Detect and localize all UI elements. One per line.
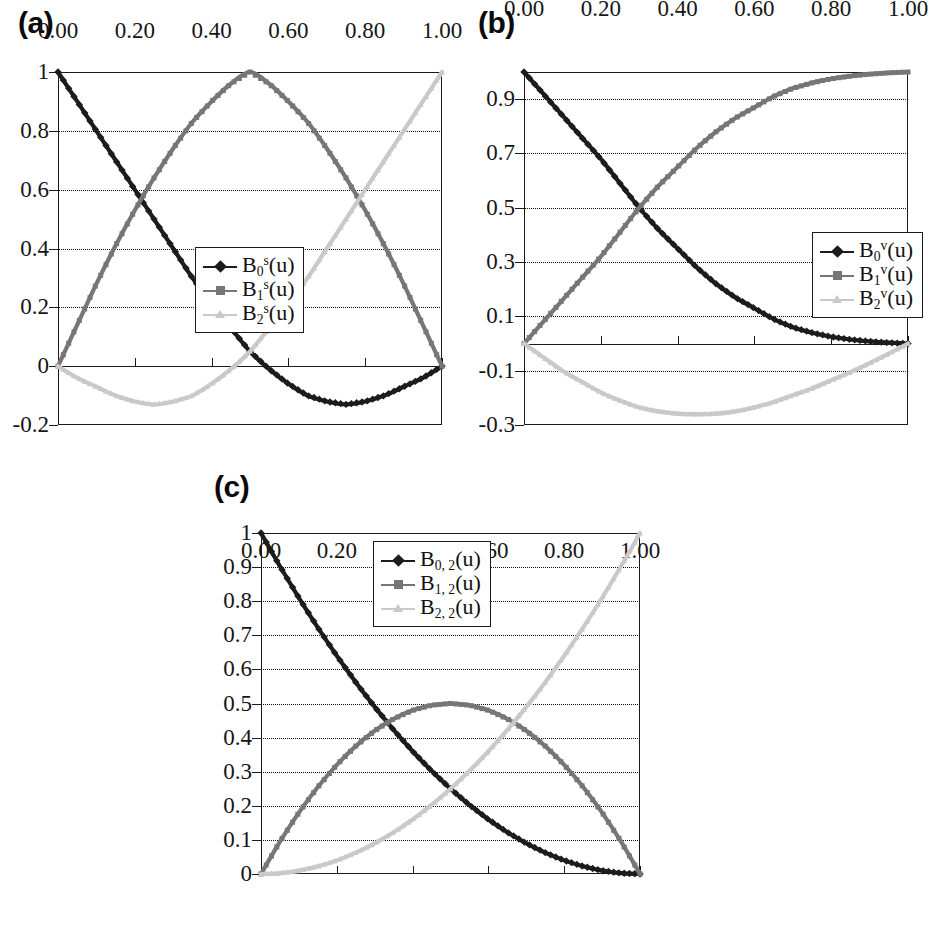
- series-marker: [788, 87, 793, 92]
- series-marker: [311, 790, 316, 795]
- series-marker: [842, 74, 847, 79]
- series-marker: [374, 727, 379, 732]
- x-axis-tick-label: 0.40: [191, 18, 231, 44]
- series-marker: [553, 754, 558, 759]
- y-axis-tick-label: -0.1: [479, 358, 524, 384]
- series-marker: [772, 93, 777, 98]
- series-marker: [429, 341, 434, 346]
- series-marker: [98, 273, 103, 278]
- x-axis-tick-label: 0.00: [504, 0, 544, 22]
- legend-marker-tri-icon: [820, 292, 854, 306]
- series-marker: [411, 708, 416, 713]
- y-axis-tick-label: 0.3: [486, 249, 524, 275]
- series-marker: [448, 701, 453, 706]
- legend-label: B1, 2(u): [420, 572, 481, 596]
- legend-item: B1s(u): [203, 278, 294, 302]
- series-marker: [480, 706, 485, 711]
- series-marker: [401, 712, 406, 717]
- y-axis-tick-label: 0.9: [486, 86, 524, 112]
- series-marker: [194, 115, 199, 120]
- series-marker: [459, 702, 464, 707]
- series-marker: [532, 735, 537, 740]
- series-marker: [264, 79, 269, 84]
- series-marker: [93, 284, 98, 289]
- series-marker: [242, 73, 247, 78]
- series-marker: [580, 783, 585, 788]
- series-marker: [634, 209, 639, 214]
- series-marker: [109, 252, 114, 257]
- series-marker: [237, 76, 242, 81]
- series-marker: [61, 352, 66, 357]
- series-marker: [296, 109, 301, 114]
- series-marker: [453, 701, 458, 706]
- series-marker: [464, 702, 469, 707]
- series-marker: [290, 103, 295, 108]
- series-marker: [682, 158, 687, 163]
- y-axis-tick-label: 0.1: [486, 303, 524, 329]
- series-marker: [559, 299, 564, 304]
- series-marker: [767, 96, 772, 101]
- series-marker: [580, 275, 585, 280]
- series-marker: [522, 727, 527, 732]
- series-marker: [543, 744, 548, 749]
- series-marker: [586, 269, 591, 274]
- series-marker: [548, 749, 553, 754]
- series-marker: [406, 710, 411, 715]
- series-marker: [638, 872, 643, 877]
- legend-item: B0v(u): [820, 239, 913, 263]
- series-marker: [601, 812, 606, 817]
- y-axis-tick-label: 0.1: [223, 827, 261, 853]
- series-marker: [516, 724, 521, 729]
- series-marker: [611, 828, 616, 833]
- series-marker: [424, 329, 429, 334]
- y-axis-tick-label: 0.4: [223, 725, 261, 751]
- series-marker: [344, 175, 349, 180]
- series-marker: [343, 754, 348, 759]
- series-marker: [548, 311, 553, 316]
- y-axis-tick-label: 0.3: [223, 759, 261, 785]
- y-axis-tick-label: 0.7: [223, 622, 261, 648]
- x-axis-tick-label: 0.80: [345, 18, 385, 44]
- series-marker: [799, 83, 804, 88]
- series-marker: [141, 193, 146, 198]
- series-marker: [258, 76, 263, 81]
- panel-b-plot-area: 0.90.70.50.30.1-0.1-0.30.000.200.400.600…: [524, 72, 908, 425]
- series-marker: [301, 804, 306, 809]
- series-marker: [395, 714, 400, 719]
- series-marker: [422, 705, 427, 710]
- series-marker: [879, 71, 884, 76]
- y-axis-tick-label: 0.5: [223, 691, 261, 717]
- x-axis-tick-label: 0.80: [811, 0, 851, 22]
- series-marker: [595, 804, 600, 809]
- series-marker: [348, 749, 353, 754]
- legend-marker-tri-icon: [203, 307, 237, 321]
- legend-label: B0s(u): [242, 254, 294, 279]
- series-marker: [719, 125, 724, 130]
- series-marker: [226, 83, 231, 88]
- series-marker: [501, 714, 506, 719]
- panel-c-plot-area: 10.90.80.70.60.50.40.30.20.100.000.200.4…: [261, 533, 640, 874]
- series-marker: [443, 701, 448, 706]
- series-marker: [836, 75, 841, 80]
- y-axis-tick-label: 0.8: [223, 588, 261, 614]
- series-marker: [532, 329, 537, 334]
- series-marker: [606, 820, 611, 825]
- series-marker: [554, 305, 559, 310]
- legend-marker-diamond-icon: [203, 259, 237, 273]
- series-marker: [232, 79, 237, 84]
- series-marker: [590, 797, 595, 802]
- series-marker: [650, 191, 655, 196]
- x-axis-tick-label: 1.00: [422, 18, 462, 44]
- series-marker: [353, 744, 358, 749]
- series-marker: [639, 203, 644, 208]
- series-marker: [337, 759, 342, 764]
- series-marker: [114, 241, 119, 246]
- series-marker: [280, 836, 285, 841]
- series-marker: [397, 273, 402, 278]
- series-marker: [274, 88, 279, 93]
- series-line-B2v(u): [524, 344, 908, 415]
- y-axis-tick-label: 0.7: [486, 140, 524, 166]
- series-marker: [884, 70, 889, 75]
- legend-marker-square-icon: [820, 268, 854, 282]
- series-marker: [364, 735, 369, 740]
